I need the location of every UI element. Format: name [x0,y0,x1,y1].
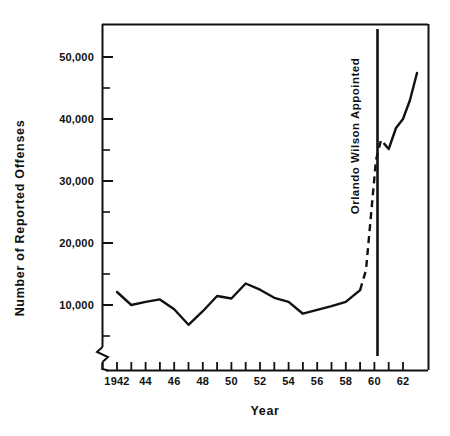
x-axis-tick-labels: 1942 44 46 48 50 52 54 56 58 60 62 [0,375,450,395]
x-tick-label: 60 [368,375,381,387]
x-tick-label: 56 [311,375,324,387]
x-tick-label: 48 [196,375,209,387]
annotation-text: Orlando Wilson Appointed [349,58,361,215]
y-major-ticks [103,57,113,305]
x-axis [103,363,429,371]
y-minor-ticks [103,88,110,336]
x-tick-label: 58 [339,375,352,387]
data-line-dashed-transition [360,140,389,290]
y-axis [97,24,108,370]
x-tick-label: 54 [282,375,295,387]
chart-plot-area [0,0,450,436]
x-tick-label: 62 [397,375,410,387]
x-tick-label: 46 [168,375,181,387]
annotation-label: Orlando Wilson Appointed [346,36,364,236]
x-tick-label: 1942 [104,375,129,387]
x-ticks [117,362,403,370]
data-line-solid-late [389,73,417,149]
y-axis-break-icon [97,347,108,362]
x-axis-break-icon [103,363,109,371]
x-axis-title: Year [102,404,428,418]
plot-frame [102,24,429,370]
chart-page: Number of Reported Offenses 50,000 40,00… [0,0,450,436]
x-tick-label: 44 [139,375,152,387]
x-tick-label: 52 [254,375,267,387]
data-line-solid-early [117,284,360,325]
x-tick-label: 50 [225,375,238,387]
